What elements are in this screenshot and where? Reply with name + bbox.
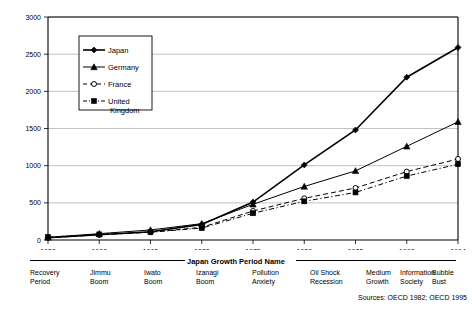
period-label-line2: Boom bbox=[144, 277, 162, 286]
data-point-marker bbox=[97, 232, 102, 237]
y-tick-label: 1500 bbox=[25, 125, 41, 132]
x-tick-label: 1965 bbox=[143, 248, 159, 250]
period-label-line2: Anxiety bbox=[252, 277, 279, 286]
x-tick-label: 1960 bbox=[91, 248, 107, 250]
y-tick-label: 3000 bbox=[25, 14, 41, 21]
period-label: RecoveryPeriod bbox=[30, 268, 60, 286]
series-france bbox=[46, 156, 461, 240]
x-tick-label: 1994 bbox=[450, 248, 466, 250]
period-label-line1: Pollution bbox=[252, 268, 279, 277]
period-label-line1: Oil Shock bbox=[310, 268, 343, 277]
period-label-line2: Recession bbox=[310, 277, 343, 286]
period-label-line2: Boom bbox=[196, 277, 219, 286]
period-label-line2: Period bbox=[30, 277, 60, 286]
period-label-line1: Recovery bbox=[30, 268, 60, 277]
chart-legend: JapanGermanyFranceUnitedKingdom bbox=[79, 36, 152, 115]
period-label: InformationSociety bbox=[400, 268, 435, 286]
data-point-marker bbox=[46, 235, 51, 240]
period-label: PollutionAnxiety bbox=[252, 268, 279, 286]
x-tick-label: 1990 bbox=[399, 248, 415, 250]
data-point-marker bbox=[404, 143, 410, 149]
data-point-marker bbox=[92, 99, 97, 104]
x-tick-label: 1980 bbox=[296, 248, 312, 250]
y-axis-title-box: GDP(Billion$) bbox=[0, 110, 45, 124]
sources-note: Sources: OECD 1982; OECD 1995 bbox=[358, 294, 467, 301]
legend-label: Germany bbox=[108, 63, 139, 72]
period-label-line2: Society bbox=[400, 277, 435, 286]
legend-label: Japan bbox=[108, 46, 128, 55]
period-label: BubbleBust bbox=[432, 268, 454, 286]
series-line bbox=[48, 159, 458, 238]
period-label: IwatoBoom bbox=[144, 268, 162, 286]
period-label-line1: Bubble bbox=[432, 268, 454, 277]
period-label: Oil ShockRecession bbox=[310, 268, 343, 286]
x-tick-label: 1970 bbox=[194, 248, 210, 250]
period-label: MediumGrowth bbox=[366, 268, 391, 286]
data-point-marker bbox=[455, 119, 461, 125]
period-label-line2: Growth bbox=[366, 277, 391, 286]
line-chart: 0500100015002000250030001950196019651970… bbox=[0, 0, 472, 250]
legend-label: Kingdom bbox=[110, 106, 140, 115]
y-tick-label: 2000 bbox=[25, 88, 41, 95]
data-point-marker bbox=[353, 190, 358, 195]
period-label-line1: Medium bbox=[366, 268, 391, 277]
data-point-marker bbox=[404, 174, 409, 179]
data-point-marker bbox=[148, 230, 153, 235]
period-group-rule-right bbox=[296, 260, 456, 261]
data-point-marker bbox=[352, 168, 358, 174]
x-axis-title: Japan Growth Period Name bbox=[0, 257, 472, 266]
legend-label: France bbox=[108, 80, 131, 89]
y-tick-label: 1000 bbox=[25, 162, 41, 169]
chart-page: 0500100015002000250030001950196019651970… bbox=[0, 0, 472, 314]
data-point-marker bbox=[199, 226, 204, 231]
period-label-line1: Izanagi bbox=[196, 268, 219, 277]
data-point-marker bbox=[302, 199, 307, 204]
data-point-marker bbox=[456, 162, 461, 167]
data-point-marker bbox=[251, 211, 256, 216]
period-label: JimmuBoom bbox=[90, 268, 111, 286]
period-label-line1: Jimmu bbox=[90, 268, 111, 277]
data-point-marker bbox=[92, 82, 97, 87]
y-tick-label: 500 bbox=[29, 199, 41, 206]
period-label-line2: Boom bbox=[90, 277, 111, 286]
x-tick-label: 1950 bbox=[40, 248, 56, 250]
period-group-rule-left bbox=[30, 260, 185, 261]
y-tick-label: 0 bbox=[37, 237, 41, 244]
period-label-line1: Information bbox=[400, 268, 435, 277]
x-tick-label: 1985 bbox=[348, 248, 364, 250]
legend-label: United bbox=[108, 97, 130, 106]
chart-plot-area: 0500100015002000250030001950196019651970… bbox=[0, 0, 472, 250]
data-point-marker bbox=[456, 156, 461, 161]
x-tick-label: 1975 bbox=[245, 248, 261, 250]
y-tick-label: 2500 bbox=[25, 51, 41, 58]
period-label-line1: Iwato bbox=[144, 268, 162, 277]
series-germany bbox=[45, 119, 461, 241]
period-label-line2: Bust bbox=[432, 277, 454, 286]
period-label: IzanagiBoom bbox=[196, 268, 219, 286]
